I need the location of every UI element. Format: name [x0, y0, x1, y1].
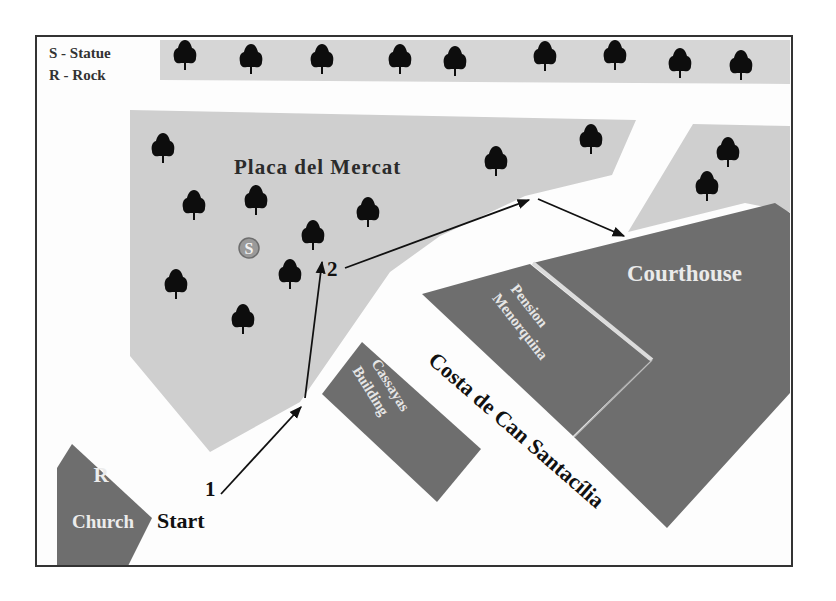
legend-statue: S - Statue [49, 45, 111, 61]
statue-symbol: S [245, 240, 254, 257]
plaza-label: Placa del Mercat [234, 155, 401, 179]
church-label: Church [72, 511, 134, 532]
map-canvas: S S - Statue R - Rock Placa del Mercat C… [0, 0, 836, 601]
rock-marker: R [93, 463, 109, 487]
courthouse-label: Courthouse [627, 261, 742, 286]
waypoint-2-label: 2 [327, 257, 338, 281]
statue-marker: S [239, 238, 259, 258]
start-label: Start [157, 508, 205, 533]
waypoint-1-label: 1 [205, 477, 216, 501]
legend-rock: R - Rock [49, 67, 106, 83]
